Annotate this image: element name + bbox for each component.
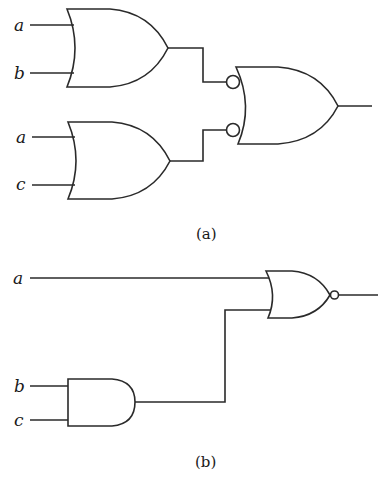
- input-label-c: c: [14, 410, 24, 430]
- or-gate-1: a b: [14, 9, 168, 87]
- gate2-to-gate3-wire: [170, 130, 226, 161]
- caption-a: (a): [196, 225, 217, 243]
- figure-a: a b a c (a): [14, 9, 372, 243]
- inversion-bubble-icon: [331, 291, 339, 299]
- input-label-a: a: [14, 15, 24, 35]
- input-label-b: b: [14, 376, 25, 396]
- and-to-nor-wire: [135, 310, 271, 402]
- input-label-b: b: [14, 63, 25, 83]
- logic-diagram: a b a c (a) a: [0, 0, 388, 479]
- input-label-a: a: [16, 127, 26, 147]
- or-gate-2: a c: [16, 122, 170, 199]
- caption-b: (b): [195, 453, 216, 471]
- and-gate: b c: [14, 376, 135, 430]
- inversion-bubble-icon: [227, 76, 240, 89]
- inversion-bubble-icon: [227, 124, 240, 137]
- or-gate-3-inverted-inputs: [227, 67, 373, 144]
- input-label-a: a: [13, 268, 23, 288]
- nor-gate: [266, 271, 378, 318]
- gate1-to-gate3-wire: [168, 48, 226, 82]
- input-label-c: c: [16, 174, 26, 194]
- figure-b: a b c (b): [13, 268, 378, 471]
